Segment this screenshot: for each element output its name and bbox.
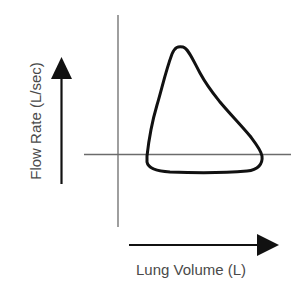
flow-volume-diagram [0, 0, 305, 297]
arrow-right-icon [129, 234, 279, 256]
flow-volume-loop [147, 47, 262, 173]
x-axis-label: Lung Volume (L) [136, 261, 246, 278]
y-axis-label: Flow Rate (L/sec) [27, 62, 44, 180]
arrow-up-icon [51, 57, 72, 184]
